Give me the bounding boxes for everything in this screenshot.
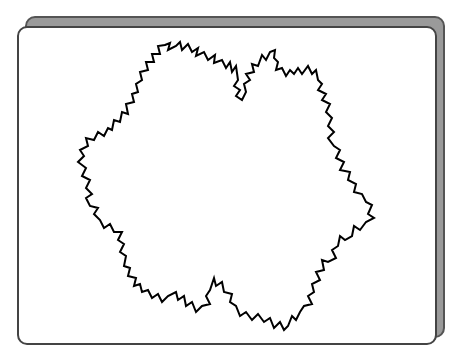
fractal-canvas: [0, 0, 458, 360]
snowflake-fractal-curve: [78, 42, 374, 330]
